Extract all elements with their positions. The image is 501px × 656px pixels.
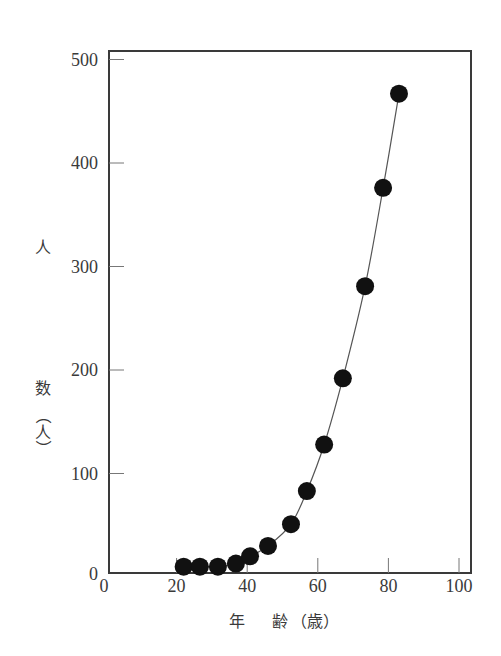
y-axis-title-char: 人	[35, 238, 51, 257]
x-axis-title-part: 齢	[272, 612, 288, 631]
data-point	[175, 558, 193, 576]
x-tick-label: 0	[100, 576, 109, 596]
y-axis-title-char: 数	[35, 379, 51, 398]
y-tick-label: 500	[71, 50, 98, 70]
series-line-path	[184, 94, 399, 567]
axis-ticks	[109, 60, 459, 574]
y-axis-title-char: ）	[34, 440, 53, 456]
x-tick-label: 20	[168, 576, 186, 596]
series-points	[175, 85, 408, 576]
data-point	[209, 558, 227, 576]
y-tick-label: 0	[89, 564, 98, 584]
plot-frame	[109, 51, 471, 573]
data-point	[374, 179, 392, 197]
x-tick-label: 100	[446, 576, 473, 596]
data-point	[298, 482, 316, 500]
data-point	[259, 537, 277, 555]
y-tick-label: 300	[71, 257, 98, 277]
x-tick-label: 80	[379, 576, 397, 596]
data-point	[315, 436, 333, 454]
x-tick-label: 40	[238, 576, 256, 596]
y-tick-label: 100	[71, 464, 98, 484]
plot-frame-rect	[109, 51, 471, 573]
y-tick-label: 200	[71, 360, 98, 380]
data-point	[191, 558, 209, 576]
data-point	[241, 547, 259, 565]
data-point	[334, 369, 352, 387]
x-tick-label: 60	[309, 576, 327, 596]
tick-labels: 0100200300400500020406080100	[71, 50, 473, 597]
y-axis-title-char: （	[34, 408, 53, 424]
y-tick-label: 400	[71, 153, 98, 173]
data-point	[282, 515, 300, 533]
data-point	[356, 277, 374, 295]
series-line	[184, 94, 399, 567]
chart: 0100200300400500020406080100 人数（人）年齢（歳）	[0, 0, 501, 656]
data-point	[390, 85, 408, 103]
x-axis-title-part: 年	[229, 612, 245, 631]
x-axis-title-part: （歳）	[291, 612, 339, 631]
